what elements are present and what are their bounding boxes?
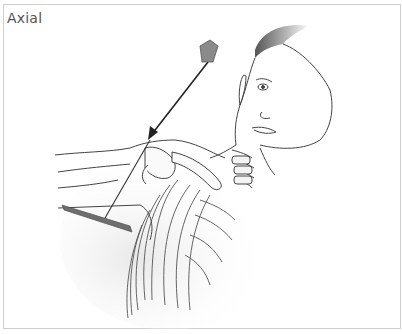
head [235, 44, 332, 148]
central-ray-line [152, 62, 208, 134]
hair [255, 25, 310, 58]
tube-icon [200, 40, 218, 62]
axial-shoulder-illustration [0, 0, 402, 334]
